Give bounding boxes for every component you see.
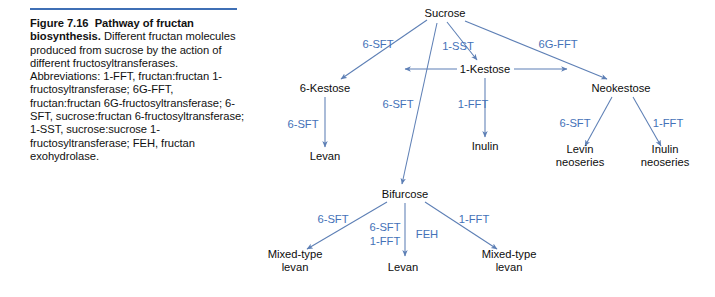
enzyme-label-neokestose-to-levin: 6-SFT bbox=[559, 117, 590, 130]
node-sucrose: Sucrose bbox=[424, 7, 465, 20]
enzyme-label-sucrose-to-6kestose: 6-SFT bbox=[362, 38, 393, 51]
node-levin-neoseries: Levin neoseries bbox=[556, 143, 605, 168]
node-1-kestose: 1-Kestose bbox=[460, 63, 510, 76]
figure-page: Figure 7.16 Pathway of fructan biosynthe… bbox=[0, 0, 715, 297]
node-6-kestose: 6-Kestose bbox=[300, 82, 350, 95]
node-mixed-levan-left: Mixed-type levan bbox=[268, 248, 323, 273]
enzyme-label-sucrose-to-neokestose: 6G-FFT bbox=[538, 38, 577, 51]
enzyme-label-neokestose-to-inulinneo: 1-FFT bbox=[653, 117, 683, 130]
fructan-pathway-diagram: Sucrose 6-Kestose 1-Kestose Neokestose L… bbox=[255, 0, 715, 297]
enzyme-label-bifurcose-to-levan-a: 6-SFT bbox=[369, 221, 400, 234]
node-inulin-neoseries: Inulin neoseries bbox=[641, 143, 690, 168]
figure-caption-panel: Figure 7.16 Pathway of fructan biosynthe… bbox=[30, 8, 245, 163]
node-inulin: Inulin bbox=[472, 140, 499, 153]
enzyme-label-6kestose-to-levan: 6-SFT bbox=[287, 118, 318, 131]
arrow-bifurcose-to-mixedright bbox=[425, 202, 497, 249]
enzyme-label-bifurcose-feh: FEH bbox=[416, 228, 438, 241]
enzyme-label-bifurcose-to-mixedright: 1-FFT bbox=[459, 213, 489, 226]
caption-rule bbox=[30, 8, 237, 10]
enzyme-label-sucrose-to-bifurcose: 6-SFT bbox=[382, 98, 413, 111]
enzyme-label-bifurcose-to-mixedleft: 6-SFT bbox=[317, 213, 348, 226]
enzyme-label-bifurcose-to-levan-b: 1-FFT bbox=[370, 235, 400, 248]
node-bifurcose: Bifurcose bbox=[382, 188, 429, 201]
caption-label: Figure 7.16 bbox=[30, 17, 89, 29]
caption-body: Different fructan molecules produced fro… bbox=[30, 30, 244, 162]
enzyme-label-sucrose-to-1kestose: 1-SST bbox=[442, 40, 474, 53]
caption-text: Figure 7.16 Pathway of fructan biosynthe… bbox=[30, 17, 245, 163]
enzyme-label-1kestose-to-inulin: 1-FFT bbox=[458, 98, 488, 111]
node-levan-center: Levan bbox=[388, 261, 418, 274]
node-mixed-levan-right: Mixed-type levan bbox=[482, 248, 537, 273]
node-levan-left: Levan bbox=[310, 150, 340, 163]
node-neokestose: Neokestose bbox=[591, 82, 650, 95]
